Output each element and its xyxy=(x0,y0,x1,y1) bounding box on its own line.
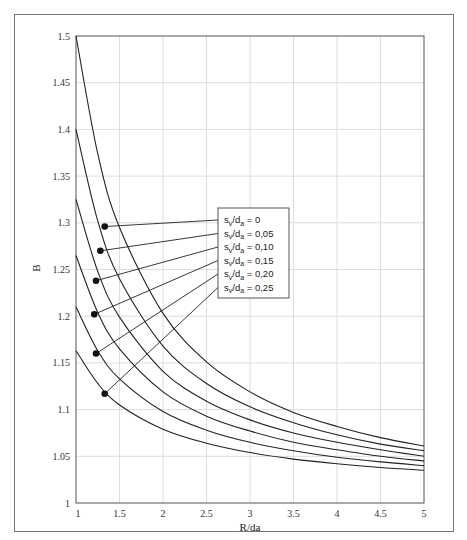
y-tick-label: 1.15 xyxy=(53,357,71,368)
series-marker xyxy=(97,248,104,255)
x-tick-label: 3.5 xyxy=(287,508,300,519)
leader-line xyxy=(96,274,218,354)
series-marker xyxy=(91,311,98,318)
legend-entry: sv/da = 0,10 xyxy=(224,241,273,254)
y-tick-label: 1.45 xyxy=(53,77,71,88)
chart-svg: 11.051.11.151.21.251.31.351.41.451.5 11.… xyxy=(0,0,467,540)
x-tick-label: 2 xyxy=(161,508,166,519)
legend-entry: sv/da = 0,25 xyxy=(224,282,273,295)
y-tick-label: 1.25 xyxy=(53,264,71,275)
y-axis-ticks: 11.051.11.151.21.251.31.351.41.451.5 xyxy=(53,31,71,509)
x-tick-label: 2.5 xyxy=(200,508,213,519)
x-tick-label: 3 xyxy=(248,508,253,519)
series-markers xyxy=(91,223,108,397)
leader-line xyxy=(100,234,218,251)
y-tick-label: 1.3 xyxy=(58,217,71,228)
x-axis-ticks: 11.522.533.544.55 xyxy=(76,508,427,519)
legend-entry: sv/da = 0,20 xyxy=(224,268,273,281)
leader-line xyxy=(105,288,218,394)
x-tick-label: 5 xyxy=(422,508,427,519)
y-tick-label: 1.4 xyxy=(58,124,71,135)
leader-line xyxy=(94,261,218,315)
x-tick-label: 4 xyxy=(335,508,340,519)
x-tick-label: 4.5 xyxy=(374,508,387,519)
leader-line xyxy=(96,247,218,281)
legend: sv/da = 0sv/da = 0,05sv/da = 0,10sv/da =… xyxy=(218,208,289,298)
series-marker xyxy=(101,390,108,397)
series-marker xyxy=(93,277,100,284)
x-axis-label: R/da xyxy=(240,521,261,533)
series-marker xyxy=(93,350,100,357)
x-tick-label: 1.5 xyxy=(113,508,126,519)
legend-entry: sv/da = 0,15 xyxy=(224,255,273,268)
y-tick-label: 1.2 xyxy=(58,311,71,322)
series-marker xyxy=(101,223,108,230)
legend-entry: sv/da = 0,05 xyxy=(224,228,273,241)
y-axis-label: B xyxy=(30,264,42,271)
x-tick-label: 1 xyxy=(76,508,81,519)
y-tick-label: 1.1 xyxy=(58,404,71,415)
y-tick-label: 1 xyxy=(65,498,70,509)
y-tick-label: 1.05 xyxy=(53,451,71,462)
y-tick-label: 1.5 xyxy=(58,31,71,42)
y-tick-label: 1.35 xyxy=(53,171,71,182)
